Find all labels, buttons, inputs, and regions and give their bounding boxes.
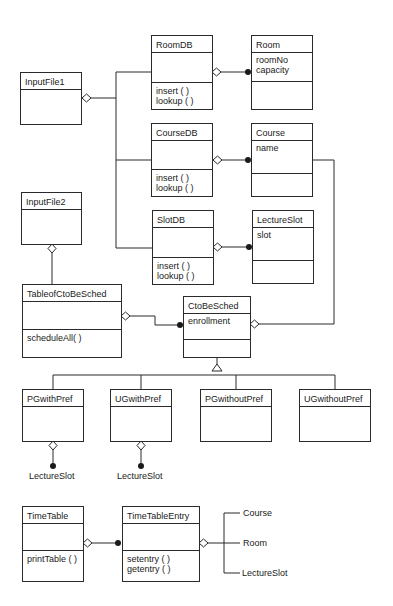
operation: insert ( ) [156,86,208,96]
aggregation-diamond [213,243,222,251]
aggregation-diamond [121,312,130,320]
class-name: PGwithoutPref [201,390,271,407]
class-name: UGwithPref [111,390,171,407]
aggregation-diamond [213,156,222,164]
class-tableofctobesched: TableofCtoBeSched scheduleAll( ) [22,284,122,358]
class-operations: insert ( ) lookup ( ) [153,257,213,284]
class-roomdb: RoomDB insert ( ) lookup ( ) [151,35,213,110]
class-name: PGwithPref [23,390,83,407]
class-attributes [123,524,199,550]
lectureslot-label: LectureSlot [29,471,75,481]
class-attributes [22,210,81,244]
lectureslot-label: LectureSlot [117,471,163,481]
attribute: enrollment [188,316,246,326]
class-attributes: slot [253,228,313,260]
class-name: CourseDB [152,124,212,141]
class-timetable: TimeTable printTable ( ) [22,506,84,582]
operation: lookup ( ) [156,183,208,193]
class-operations: insert ( ) lookup ( ) [152,169,212,196]
class-name: InputFile2 [22,193,81,210]
class-inputfile2: InputFile2 [21,192,82,245]
aggregation-diamond [137,441,145,450]
multiplicity-dot [115,540,121,546]
attribute: name [256,143,308,153]
lectureslot-label: LectureSlot [242,568,288,578]
class-name: TimeTable [23,507,83,524]
attribute: capacity [256,65,308,75]
generalization-triangle [212,364,222,371]
class-operations [184,339,250,357]
operation: printTable ( ) [27,554,79,564]
class-attributes [152,53,212,82]
class-inputfile1: InputFile1 [20,72,82,125]
class-attributes [153,228,213,257]
operation: scheduleAll( ) [27,333,117,343]
aggregation-diamond [49,441,57,450]
class-slotdb: SlotDB insert ( ) lookup ( ) [152,210,214,285]
class-name: CtoBeSched [184,297,250,314]
class-operations: insert ( ) lookup ( ) [152,82,212,109]
attribute: roomNo [256,55,308,65]
class-coursedb: CourseDB insert ( ) lookup ( ) [151,123,213,197]
class-name: RoomDB [152,36,212,53]
class-operations [252,173,312,196]
operation: lookup ( ) [156,96,208,106]
class-course: Course name [251,123,313,197]
class-operations: setentry ( ) getentry ( ) [123,550,199,581]
class-name: UGwithoutPref [300,390,370,407]
aggregation-diamond [82,94,91,102]
aggregation-diamond [212,68,221,76]
class-attributes [21,90,81,124]
class-name: Course [252,124,312,141]
class-attributes [23,524,83,550]
class-room: Room roomNo capacity [251,35,313,110]
class-name: SlotDB [153,211,213,228]
aggregation-diamond [83,539,92,547]
operation: getentry ( ) [127,564,195,574]
aggregation-diamond [48,244,56,253]
class-pgwithpref: PGwithPref [22,389,84,442]
class-ugwithpref: UGwithPref [110,389,172,442]
operation: lookup ( ) [157,271,209,281]
class-attributes [201,407,271,441]
class-lectureslot: LectureSlot slot [252,210,314,284]
course-label: Course [243,508,272,518]
class-name: InputFile1 [21,73,81,90]
class-name: LectureSlot [253,211,313,228]
class-attributes [152,141,212,169]
aggregation-diamond [199,539,208,547]
class-operations [252,81,312,109]
operation: insert ( ) [157,261,209,271]
multiplicity-dot [50,463,56,469]
class-operations: printTable ( ) [23,550,83,581]
class-ugwithoutpref: UGwithoutPref [299,389,371,442]
class-name: Room [252,36,312,53]
class-attributes: enrollment [184,314,250,339]
operation: setentry ( ) [127,554,195,564]
class-name: TableofCtoBeSched [23,285,121,302]
operation: insert ( ) [156,173,208,183]
attribute: slot [257,230,309,240]
class-attributes [111,407,171,441]
class-attributes [23,407,83,441]
class-operations: scheduleAll( ) [23,329,121,357]
class-attributes [23,302,121,329]
class-pgwithoutpref: PGwithoutPref [200,389,272,442]
class-timetableentry: TimeTableEntry setentry ( ) getentry ( ) [122,506,200,582]
room-label: Room [243,538,267,548]
class-ctobesched: CtoBeSched enrollment [183,296,251,358]
class-attributes: name [252,141,312,173]
class-name: TimeTableEntry [123,507,199,524]
class-attributes: roomNo capacity [252,53,312,81]
multiplicity-dot [138,463,144,469]
class-attributes [300,407,370,441]
class-operations [253,260,313,283]
aggregation-diamond [250,320,259,328]
